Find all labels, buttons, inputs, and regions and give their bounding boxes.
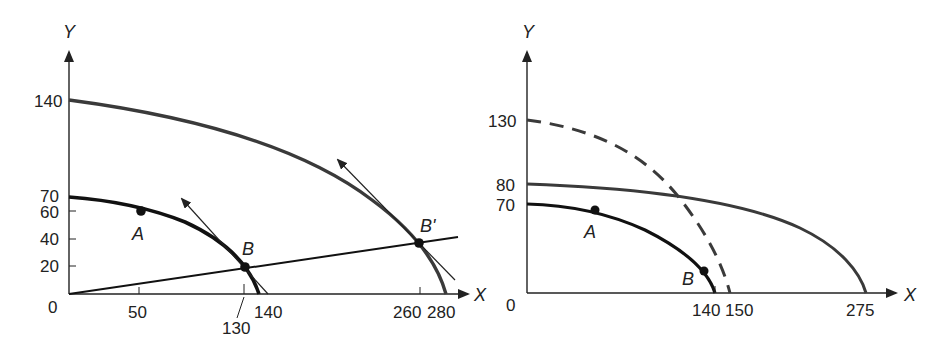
right-chart: Y X 0 130 80 70 140 150 275 A B bbox=[488, 22, 917, 320]
left-tangent-arrow-b-prime bbox=[338, 160, 455, 280]
left-point-a-marker bbox=[136, 206, 146, 216]
right-x-tick-label-150: 150 bbox=[725, 301, 753, 320]
left-tangent-arrow-b bbox=[182, 199, 268, 294]
right-x-tick-label-275: 275 bbox=[846, 301, 874, 320]
right-wide-ppf-curve bbox=[527, 184, 866, 293]
right-origin-label: 0 bbox=[506, 296, 515, 315]
left-y-axis-label: Y bbox=[63, 22, 77, 42]
left-point-b-prime-label: B' bbox=[420, 216, 436, 236]
left-x-tick-label-280: 280 bbox=[427, 303, 455, 322]
left-x-tick-label-130: 130 bbox=[222, 319, 250, 338]
left-outer-ppf-curve bbox=[69, 100, 446, 294]
left-x-axis-label: X bbox=[473, 285, 487, 305]
left-x-tick-label-260: 260 bbox=[393, 303, 421, 322]
left-origin-label: 0 bbox=[48, 298, 57, 317]
right-y-tick-label-70: 70 bbox=[496, 196, 515, 215]
left-x-tick-label-140: 140 bbox=[254, 303, 282, 322]
left-point-b-marker bbox=[240, 262, 250, 272]
right-y-tick-label-80: 80 bbox=[496, 176, 515, 195]
left-y-tick-label-60: 60 bbox=[40, 203, 59, 222]
right-point-b-marker bbox=[700, 267, 709, 276]
left-ray-line bbox=[69, 237, 458, 294]
left-point-a-label: A bbox=[131, 224, 144, 244]
left-x-tick-label-50: 50 bbox=[128, 303, 147, 322]
right-y-tick-label-130: 130 bbox=[488, 112, 516, 131]
right-x-tick-label-140: 140 bbox=[692, 301, 720, 320]
left-x-130-leader bbox=[237, 297, 244, 318]
left-y-tick-label-140: 140 bbox=[34, 92, 62, 111]
left-point-b-prime-marker bbox=[414, 238, 424, 248]
right-x-axis-label: X bbox=[903, 285, 917, 305]
right-point-b-label: B bbox=[682, 269, 694, 289]
figure: Y X 0 140 70 60 40 20 50 130 140 260 280… bbox=[0, 0, 951, 346]
right-point-a-marker bbox=[591, 206, 600, 215]
left-chart: Y X 0 140 70 60 40 20 50 130 140 260 280… bbox=[34, 22, 487, 338]
left-y-tick-label-40: 40 bbox=[40, 230, 59, 249]
right-point-a-label: A bbox=[583, 222, 596, 242]
left-point-b-label: B bbox=[242, 239, 254, 259]
right-y-axis-label: Y bbox=[522, 22, 536, 42]
left-y-tick-label-20: 20 bbox=[40, 257, 59, 276]
